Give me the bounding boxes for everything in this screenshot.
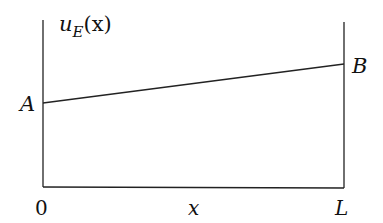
x-axis [43,187,344,188]
point-a-label: A [18,92,35,116]
x-start-label: 0 [35,196,48,220]
x-axis-label: x [188,196,199,220]
point-b-label: B [351,54,367,78]
x-end-label: L [334,196,348,220]
u-e-line [43,64,344,103]
y-axis-label: uE(x) [59,12,112,41]
diagram-canvas: uE(x) A B 0 x L [0,0,383,223]
